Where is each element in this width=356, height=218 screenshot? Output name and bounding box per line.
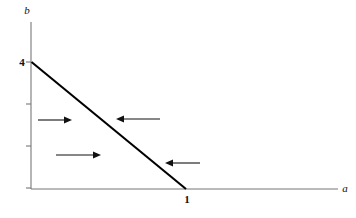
arrow-lower-right-icon [165,160,200,167]
constraint-boundary-line [32,62,187,189]
arrow-lower-left-icon [56,152,101,159]
x-axis-label: a [342,182,348,194]
y-intercept-label: 4 [19,56,25,68]
arrow-upper-left-icon [38,117,72,124]
y-axis-label: b [24,4,30,16]
x-intercept-label: 1 [184,193,190,205]
line-chart: b a 4 1 [0,0,356,218]
arrow-upper-right-icon [116,116,160,123]
